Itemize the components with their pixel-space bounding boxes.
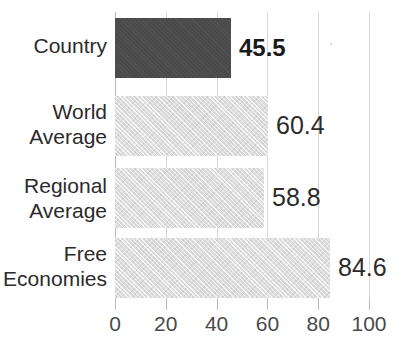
value-label-country: 45.5 bbox=[239, 34, 286, 62]
tickmark-20 bbox=[166, 298, 167, 310]
category-label-line-1: Regional bbox=[24, 174, 107, 197]
value-label-regional-average: 58.8 bbox=[272, 183, 321, 211]
value-label-world-average: 60.4 bbox=[276, 111, 325, 139]
category-label-line-2: Average bbox=[29, 199, 107, 222]
category-label-line-1: Free bbox=[64, 242, 107, 265]
tick-label-100: 100 bbox=[339, 312, 399, 336]
category-label-line-2: Economies bbox=[3, 267, 107, 290]
tickmark-0 bbox=[115, 298, 116, 310]
category-label-line-2: Average bbox=[29, 125, 107, 148]
tickmark-80 bbox=[318, 298, 319, 310]
category-label-world-average: WorldAverage bbox=[0, 99, 107, 149]
bar-country bbox=[115, 18, 231, 78]
tickmark-40 bbox=[217, 298, 218, 310]
category-label-country: Country bbox=[0, 33, 107, 58]
bar-regional-average bbox=[115, 168, 264, 228]
bar-chart: Country WorldAverage RegionalAverage Fre… bbox=[0, 0, 406, 356]
category-label-regional-average: RegionalAverage bbox=[0, 173, 107, 223]
tickmark-60 bbox=[267, 298, 268, 310]
plot-area: 45.5 60.4 58.8 84.6 0 20 40 60 80 100 bbox=[115, 0, 369, 356]
bar-free-economies bbox=[115, 238, 330, 298]
tickmark-100 bbox=[369, 298, 370, 310]
bar-world-average bbox=[115, 96, 268, 156]
category-label-line-1: World bbox=[53, 100, 107, 123]
value-label-free-economies: 84.6 bbox=[338, 253, 387, 281]
scan-speck bbox=[330, 43, 332, 45]
category-label-free-economies: FreeEconomies bbox=[0, 241, 107, 291]
